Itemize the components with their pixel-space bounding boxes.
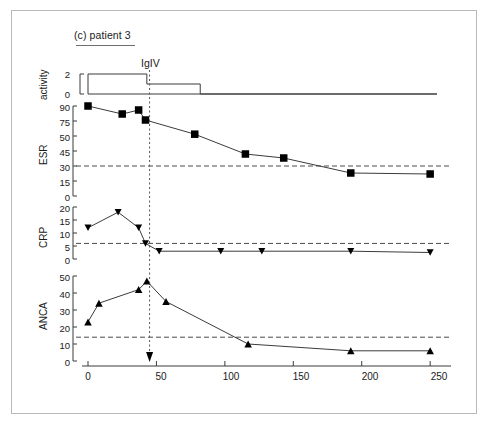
panel-activity	[80, 74, 437, 94]
chart-canvas	[0, 0, 491, 427]
igiv-marker-line	[146, 70, 153, 362]
x-axis	[82, 361, 451, 366]
panel-esr	[73, 102, 449, 196]
panel-crp	[73, 207, 449, 259]
panel-anca	[73, 276, 449, 361]
figure-container: (c) patient 3 IgIV activity ESR CRP ANCA…	[0, 0, 491, 427]
